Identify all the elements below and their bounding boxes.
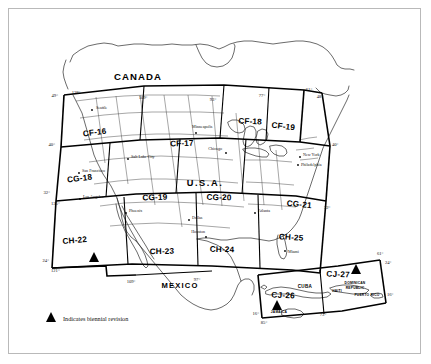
city-label-new-york: New York: [303, 152, 321, 157]
city-label-philadelphia: Philadelphia: [301, 162, 322, 167]
city-label-houston: Houston: [191, 229, 205, 234]
zone-label-cg-18: CG-18: [67, 172, 93, 184]
index-map-svg: CF-16 CF-17 CF-18 CF-19 CG-18 CG-19 CG-2…: [0, 0, 431, 364]
legend: Indicates biennial revision: [46, 312, 128, 322]
coord-left-49: 49°: [52, 93, 59, 98]
coord-right-61: 61°: [377, 251, 384, 256]
island-label-republic: REPUBLIC: [346, 286, 365, 290]
zone-label-cf-18: CF-18: [238, 116, 262, 126]
country-label-mexico: MEXICO: [161, 281, 198, 290]
city-label-chicago: Chicago: [208, 146, 222, 151]
country-labels: CANADA U.S.A. MEXICO: [114, 71, 223, 290]
city-dot-san-francisco: [78, 172, 80, 174]
city-dot-minneapolis: [195, 132, 197, 134]
zone-labels: CF-16 CF-17 CF-18 CF-19 CG-18 CG-19 CG-2…: [62, 116, 350, 300]
legend-label: Indicates biennial revision: [63, 315, 128, 322]
zone-label-cf-17: CF-17: [170, 139, 194, 149]
city-dot-miami: [284, 250, 286, 252]
city-dot-los-angeles: [79, 198, 81, 200]
zone-label-cg-19: CG-19: [142, 193, 168, 203]
coord-bottom-16: 16°: [253, 311, 260, 316]
city-label-miami: Miami: [288, 249, 300, 254]
triangle-icon-cj-26: [272, 300, 282, 310]
city-label-salt-lake-city: Salt Lake City: [131, 154, 156, 159]
zone-label-cj-27: CJ-27: [326, 270, 350, 280]
zone-label-ch-23: CH-23: [150, 247, 175, 256]
city-dot-new-york: [299, 156, 301, 158]
island-label-dominican: DOMINICAN: [345, 281, 366, 285]
zone-label-cf-19: CF-19: [271, 121, 296, 133]
country-label-canada: CANADA: [114, 71, 162, 82]
coord-top-109: 109°: [139, 95, 148, 100]
zone-label-cg-20: CG-20: [206, 193, 232, 202]
city-dot-philadelphia: [297, 164, 299, 166]
island-label-puerto-rico: PUERTO RICO: [354, 293, 379, 297]
island-label-cuba: CUBA: [298, 284, 313, 289]
zone-label-ch-25: CH-25: [279, 232, 304, 243]
coord-right-40: 40°: [332, 142, 339, 147]
zone-label-ch-22: CH-22: [62, 235, 88, 246]
city-dot-houston: [205, 236, 207, 238]
coord-right-32: 32°: [324, 205, 331, 210]
coord-right-24: 24°: [385, 260, 392, 265]
island-label-jamaica: JAMAICA: [271, 310, 288, 314]
coord-left-24: 24°: [43, 258, 50, 263]
coord-left-121: 121°: [51, 268, 60, 273]
zone-label-ch-24: CH-24: [210, 245, 235, 254]
city-dot-dallas: [188, 219, 190, 221]
city-dot-chicago: [225, 152, 227, 154]
city-label-los-angeles: Los Angeles: [83, 194, 104, 199]
city-label-dallas: Dallas: [192, 215, 203, 220]
coord-right-16: 16°: [387, 292, 394, 297]
coord-bottom-73: 73°: [320, 312, 327, 317]
city-dot-salt-lake-city: [127, 158, 129, 160]
coord-bottom-109: 109°: [127, 279, 136, 284]
zone-label-cf-16: CF-16: [82, 127, 107, 139]
city-label-san-francisco: San Francisco: [82, 168, 105, 173]
city-label-atlanta: Atlanta: [258, 208, 270, 213]
coord-bottom-85: 85°: [261, 320, 268, 325]
coord-left-32: 32°: [44, 190, 51, 195]
coord-top-61: 61°: [306, 87, 313, 92]
city-dot-seattle: [91, 109, 93, 111]
state-boundaries: [76, 95, 318, 228]
coord-top-128: 128°: [72, 90, 81, 95]
city-label-seattle: Seattle: [96, 105, 107, 110]
triangle-icon-cj-27: [351, 264, 361, 274]
city-dot-atlanta: [254, 212, 256, 214]
coord-left-40: 40°: [49, 142, 56, 147]
triangle-icon-ch-22: [89, 252, 99, 262]
city-label-minneapolis: Minneapolis: [192, 124, 213, 129]
island-label-haiti: HAITI: [332, 289, 342, 293]
map-stage: CF-16 CF-17 CF-18 CF-19 CG-18 CG-19 CG-2…: [0, 0, 431, 364]
city-dot-phoenix: [125, 212, 127, 214]
city-label-phoenix: Phoenix: [129, 208, 142, 213]
coord-top-48: 48°: [317, 94, 324, 99]
coord-left-135: 135°: [51, 201, 60, 206]
country-label-usa: U.S.A.: [187, 178, 224, 188]
triangle-icon-legend: [46, 312, 56, 322]
coord-top-77: 77°: [259, 93, 266, 98]
zone-label-cj-26: CJ-26: [271, 291, 295, 301]
coord-top-93: 93°: [210, 97, 217, 102]
zone-label-cg-21: CG-21: [286, 199, 312, 211]
coord-bottom-97: 97°: [194, 277, 201, 282]
